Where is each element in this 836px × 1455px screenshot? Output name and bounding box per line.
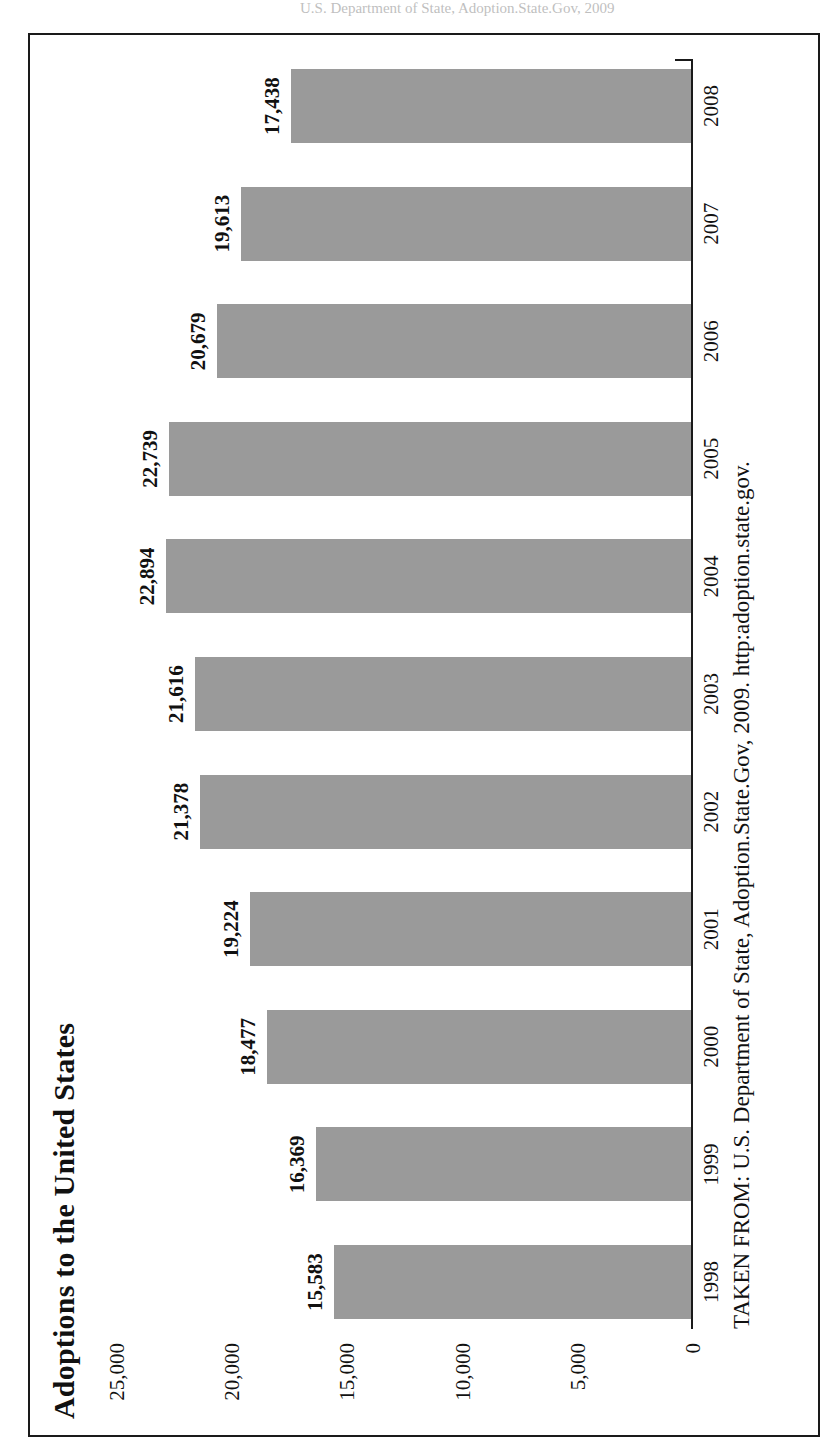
bar-rect[interactable] [291,69,693,143]
bar-rect[interactable] [200,775,693,849]
category-label: 2005 [699,422,724,496]
category-label: 2003 [699,657,724,731]
rotated-chart-stage: Adoptions to the United States 25,00020,… [39,45,809,1425]
bar-slot[interactable]: 18,4772000 [117,1010,693,1084]
value-tick-label: 10,000 [451,1343,476,1401]
bar-value-label: 20,679 [186,312,211,370]
bar-rect[interactable] [166,539,693,613]
bar-value-label: 19,224 [219,900,244,958]
bar-value-label: 21,378 [169,783,194,841]
bar-slot[interactable]: 21,6162003 [117,657,693,731]
bar-rect[interactable] [267,1010,693,1084]
category-label: 2000 [699,1010,724,1084]
bar-value-label: 22,894 [135,548,160,606]
category-label: 2002 [699,775,724,849]
value-tick-label: 20,000 [220,1343,245,1401]
category-label: 2004 [699,539,724,613]
category-label: 1998 [699,1245,724,1319]
bar-rect[interactable] [334,1245,693,1319]
bar-rect[interactable] [241,187,693,261]
bar-slot[interactable]: 15,5831998 [117,1245,693,1319]
category-label: 2006 [699,304,724,378]
bar-series: 15,583199816,369199918,477200019,2242001… [117,59,693,1329]
bar-slot[interactable]: 20,6792006 [117,304,693,378]
value-tick-label: 5,000 [566,1343,591,1390]
bar-slot[interactable]: 16,3691999 [117,1127,693,1201]
category-label: 2007 [699,187,724,261]
value-axis-line [691,59,693,1329]
bar-value-label: 19,613 [210,195,235,253]
bar-rect[interactable] [195,657,693,731]
plot-area: 15,583199816,369199918,477200019,2242001… [117,59,693,1329]
bar-rect[interactable] [169,422,693,496]
bar-value-label: 21,616 [164,665,189,723]
bar-slot[interactable]: 17,4382008 [117,69,693,143]
bar-slot[interactable]: 22,7392005 [117,422,693,496]
bar-value-label: 17,438 [260,77,285,135]
bar-value-label: 18,477 [236,1018,261,1076]
value-tick-label: 0 [681,1343,706,1354]
source-attribution: TAKEN FROM: U.S. Department of State, Ad… [729,461,755,1329]
value-axis-ticks: 25,00020,00015,00010,0005,0000 [117,1337,693,1425]
value-tick-label: 25,000 [105,1343,130,1401]
chart-title: Adoptions to the United States [47,1023,81,1419]
bar-value-label: 22,739 [138,430,163,488]
bar-rect[interactable] [217,304,693,378]
bar-value-label: 16,369 [285,1136,310,1194]
bar-rect[interactable] [250,892,693,966]
bar-slot[interactable]: 21,3782002 [117,775,693,849]
category-label: 2001 [699,892,724,966]
category-label: 2008 [699,69,724,143]
bar-slot[interactable]: 19,6132007 [117,187,693,261]
category-label: 1999 [699,1127,724,1201]
page-top-text-sliver: U.S. Department of State, Adoption.State… [300,0,830,16]
bar-rect[interactable] [316,1127,693,1201]
axis-end-tick [675,59,693,61]
value-tick-label: 15,000 [335,1343,360,1401]
bar-slot[interactable]: 22,8942004 [117,539,693,613]
bar-slot[interactable]: 19,2242001 [117,892,693,966]
figure-frame: Adoptions to the United States 25,00020,… [28,33,820,1437]
bar-value-label: 15,583 [303,1253,328,1311]
